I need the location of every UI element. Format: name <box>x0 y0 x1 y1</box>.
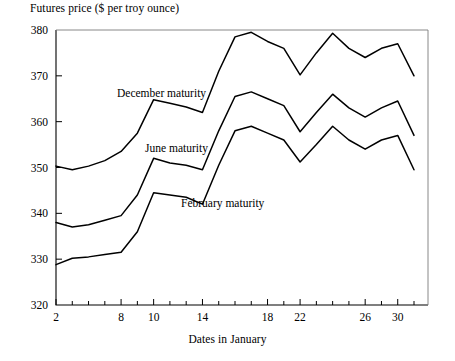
y-tick-label: 380 <box>31 24 49 36</box>
y-tick-label: 360 <box>31 116 49 128</box>
x-tick-label: 14 <box>197 311 209 323</box>
y-tick-label: 320 <box>31 299 49 311</box>
y-tick-label-group: 320330340350360370380 <box>31 24 49 311</box>
x-tick-label: 22 <box>294 311 306 323</box>
y-tick-label: 350 <box>31 162 49 174</box>
series-annotation: June maturity <box>145 142 208 155</box>
series-annotation: February maturity <box>181 197 265 210</box>
plot-svg: 320330340350360370380 28101418222630 Dec… <box>0 0 455 361</box>
x-tick-label: 30 <box>392 311 404 323</box>
x-tick-label-group: 28101418222630 <box>53 311 404 323</box>
x-tick-label: 8 <box>118 311 124 323</box>
y-tick-label: 340 <box>31 207 49 219</box>
x-tick-label: 18 <box>262 311 274 323</box>
x-tick-label: 10 <box>148 311 160 323</box>
series-annotation: December maturity <box>117 87 206 100</box>
series-line <box>56 126 414 264</box>
axis-frame <box>56 30 428 305</box>
x-tick-label: 2 <box>53 311 59 323</box>
x-tick-label: 26 <box>359 311 371 323</box>
y-tick-label: 330 <box>31 253 49 265</box>
plot-box-top-right <box>56 30 428 305</box>
axis-spines <box>56 30 428 305</box>
series-group <box>56 32 414 264</box>
x-tick-mark-group <box>56 299 414 305</box>
series-line <box>56 32 414 170</box>
futures-price-chart: Futures price ($ per troy ounce) Dates i… <box>0 0 455 361</box>
y-tick-label: 370 <box>31 70 49 82</box>
